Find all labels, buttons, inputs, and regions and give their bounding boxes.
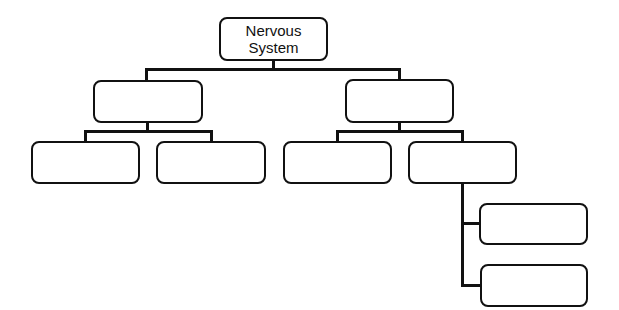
node-level2-right[interactable]	[345, 79, 454, 123]
connector-root-bar	[145, 68, 401, 71]
node-level3-2[interactable]	[156, 141, 266, 184]
root-label-line1: Nervous	[246, 22, 302, 39]
node-level2-left[interactable]	[93, 80, 203, 123]
root-node-nervous-system: Nervous System	[219, 17, 328, 61]
connector-sub-vertical	[461, 182, 464, 287]
node-level4-2[interactable]	[480, 264, 588, 307]
node-level3-3[interactable]	[283, 141, 392, 184]
connector-sub-a	[461, 222, 480, 225]
node-level3-4[interactable]	[408, 141, 517, 184]
connector-sub-b	[461, 284, 480, 287]
connector-left-bar	[84, 130, 213, 133]
node-level3-1[interactable]	[31, 141, 140, 184]
root-label-line2: System	[246, 39, 302, 56]
connector-right-bar	[336, 130, 464, 133]
node-level4-1[interactable]	[479, 203, 588, 245]
